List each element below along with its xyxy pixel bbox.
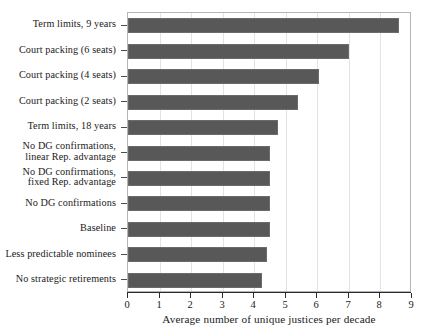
x-axis-tick-label: 4 [241, 299, 265, 310]
x-axis-tick-label: 1 [147, 299, 171, 310]
category-label: Court packing (2 seats) [19, 96, 116, 107]
y-axis-tick [121, 203, 127, 204]
category-label: Court packing (6 seats) [19, 45, 116, 56]
x-axis-tick-label: 0 [115, 299, 139, 310]
category-label: Court packing (4 seats) [19, 70, 116, 81]
y-axis-tick [121, 152, 127, 153]
x-axis-tick-label: 7 [336, 299, 360, 310]
bar [128, 171, 270, 186]
x-axis-tick-label: 3 [210, 299, 234, 310]
x-axis-tick-label: 8 [367, 299, 391, 310]
gridline [349, 13, 350, 291]
bar [128, 247, 267, 262]
gridline [380, 13, 381, 291]
category-label: No strategic retirements [16, 274, 116, 285]
y-axis-tick [121, 228, 127, 229]
x-axis-tick-label: 9 [399, 299, 423, 310]
category-label: Less predictable nominees [5, 249, 116, 260]
x-axis-tick [159, 293, 160, 298]
y-axis-tick [121, 254, 127, 255]
x-axis-tick [190, 293, 191, 298]
x-axis-tick [411, 293, 412, 298]
bar [128, 273, 262, 288]
category-label: Term limits, 18 years [27, 121, 116, 132]
bar [128, 222, 270, 237]
y-axis-tick [121, 127, 127, 128]
category-label: No DG confirmations, fixed Rep. advantag… [23, 167, 116, 188]
category-axis-labels: Term limits, 9 yearsCourt packing (6 sea… [0, 12, 122, 292]
category-label: No DG confirmations, linear Rep. advanta… [23, 141, 116, 162]
x-axis-tick [379, 293, 380, 298]
x-axis-tick [127, 293, 128, 298]
x-axis-tick-label: 6 [304, 299, 328, 310]
y-axis-tick [121, 25, 127, 26]
category-label: No DG confirmations [25, 198, 116, 209]
y-axis-tick [121, 279, 127, 280]
bar [128, 196, 270, 211]
x-axis-tick [222, 293, 223, 298]
category-label: Term limits, 9 years [33, 19, 116, 30]
bar [128, 18, 399, 33]
bar [128, 69, 319, 84]
category-label: Baseline [80, 223, 116, 234]
x-axis-title: Average number of unique justices per de… [127, 313, 411, 325]
x-axis-tick-label: 5 [273, 299, 297, 310]
bar-chart: Term limits, 9 yearsCourt packing (6 sea… [0, 0, 425, 333]
bar [128, 120, 278, 135]
x-axis-tick [348, 293, 349, 298]
y-axis-tick [121, 177, 127, 178]
x-axis-tick [316, 293, 317, 298]
bar [128, 44, 349, 59]
x-axis-tick-label: 2 [178, 299, 202, 310]
bar [128, 146, 270, 161]
y-axis-tick [121, 76, 127, 77]
y-axis-tick [121, 101, 127, 102]
bar [128, 95, 298, 110]
x-axis-tick [285, 293, 286, 298]
x-axis-line [127, 292, 411, 293]
plot-area [127, 12, 411, 292]
x-axis-tick [253, 293, 254, 298]
y-axis-tick [121, 50, 127, 51]
